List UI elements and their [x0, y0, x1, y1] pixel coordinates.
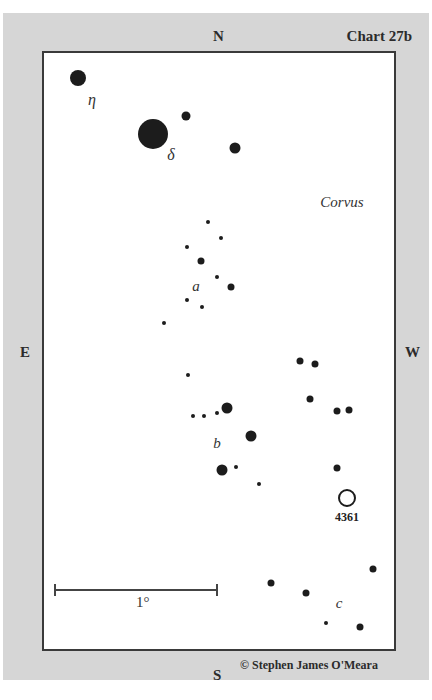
star-dot-icon [246, 431, 257, 442]
star-dot-icon [215, 411, 219, 415]
star-dot-icon [191, 414, 195, 418]
star-dot-icon [217, 465, 228, 476]
star-dot-icon [297, 358, 304, 365]
asterism-label-b: b [213, 435, 221, 452]
scale-bar-right-tick [216, 584, 218, 596]
star-dot-icon [234, 465, 238, 469]
star-dot-icon [200, 305, 204, 309]
star-dot-icon [219, 236, 223, 240]
star-dot-icon [185, 245, 189, 249]
star-dot-icon [138, 119, 168, 149]
compass-west: W [405, 344, 420, 361]
star-dot-icon [186, 373, 190, 377]
star-dot-icon [162, 321, 166, 325]
star-dot-icon [228, 284, 235, 291]
star-dot-icon [222, 403, 233, 414]
compass-north: N [213, 28, 224, 45]
asterism-label-a: a [192, 278, 200, 295]
star-dot-icon [206, 220, 210, 224]
star-dot-icon [185, 298, 189, 302]
star-label-delta: δ [167, 146, 174, 164]
star-dot-icon [312, 361, 319, 368]
star-dot-icon [303, 590, 310, 597]
scale-bar-line [54, 589, 218, 591]
star-dot-icon [198, 258, 205, 265]
star-dot-icon [370, 566, 377, 573]
star-dot-icon [257, 482, 261, 486]
star-dot-icon [334, 408, 341, 415]
asterism-label-c: c [336, 595, 343, 612]
compass-south: S [213, 667, 221, 684]
star-dot-icon [334, 465, 341, 472]
star-dot-icon [346, 407, 353, 414]
star-chart-frame [42, 51, 396, 651]
star-dot-icon [215, 275, 219, 279]
scale-bar-label: 1° [136, 594, 150, 611]
star-dot-icon [182, 112, 191, 121]
star-dot-icon [307, 396, 314, 403]
star-label-eta: η [88, 91, 96, 109]
chart-title: Chart 27b [347, 28, 412, 45]
star-dot-icon [268, 580, 275, 587]
star-dot-icon [324, 621, 328, 625]
copyright-credit: © Stephen James O'Meara [240, 658, 378, 673]
star-dot-icon [202, 414, 206, 418]
constellation-label: Corvus [320, 194, 363, 211]
compass-east: E [20, 344, 30, 361]
nebula-label: 4361 [335, 510, 359, 525]
star-dot-icon [230, 143, 241, 154]
star-dot-icon [70, 70, 86, 86]
nebula-marker-icon [338, 489, 356, 507]
star-dot-icon [357, 624, 364, 631]
